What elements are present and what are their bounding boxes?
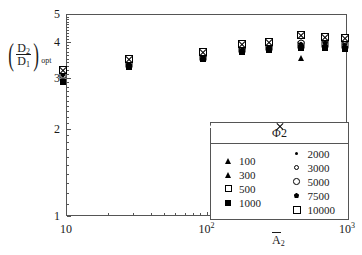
- legend: Φ2 1003005001000200030005000750010000: [210, 122, 349, 220]
- x-tick-label: 10: [46, 223, 86, 235]
- data-point: [297, 31, 305, 39]
- y-tick-label: 1: [38, 210, 60, 222]
- marker-triangle-filled: [225, 172, 231, 178]
- y-tick-minor: [67, 142, 69, 143]
- y-tick-minor: [67, 19, 69, 20]
- numerator-sub: 2: [26, 47, 30, 56]
- data-point: [298, 42, 303, 47]
- x-tick-minor: [175, 213, 176, 216]
- y-tick-minor: [67, 165, 69, 166]
- marker-square-crossed: [59, 66, 67, 74]
- legend-label: 3000: [305, 162, 330, 174]
- y-tick-minor: [67, 101, 69, 102]
- legend-label: 10000: [305, 204, 336, 216]
- marker-square-crossed: [265, 38, 273, 46]
- x-tick-minor: [193, 213, 194, 216]
- marker-diamond-filled: [294, 193, 299, 198]
- data-point: [321, 33, 329, 41]
- y-tick-minor: [67, 70, 69, 71]
- marker-diamond-filled: [298, 42, 303, 47]
- y-tick-minor: [67, 59, 69, 60]
- legend-label: 1000: [236, 197, 261, 209]
- y-tick-minor: [67, 87, 69, 88]
- denominator-sub: 1: [26, 60, 30, 69]
- y-tick-minor: [67, 66, 69, 67]
- legend-body: 1003005001000200030005000750010000: [211, 144, 348, 219]
- legend-symbol: [289, 152, 305, 155]
- data-point: [199, 48, 207, 56]
- legend-column: 200030005000750010000: [280, 144, 349, 219]
- legend-column: 1003005001000: [211, 144, 280, 219]
- marker-dot-filled: [295, 152, 298, 155]
- legend-symbol: [220, 158, 236, 164]
- x-axis-title: A2: [272, 233, 285, 248]
- marker-square-crossed: [125, 55, 133, 63]
- legend-label: 2000: [305, 148, 330, 160]
- y-axis-fraction: D2 D1: [16, 42, 31, 68]
- y-tick-minor: [67, 74, 69, 75]
- data-point: [298, 55, 304, 61]
- legend-symbol: [220, 172, 236, 178]
- paren-open-icon: (: [8, 42, 14, 67]
- x-tick-label: 103: [327, 223, 362, 237]
- legend-item[interactable]: 2000: [289, 147, 349, 161]
- x-tick-label: 102: [187, 223, 227, 237]
- data-point: [341, 34, 349, 42]
- marker-square-crossed: [321, 33, 329, 41]
- y-tick-minor: [67, 149, 69, 150]
- y-tick-label: 2: [38, 123, 60, 135]
- legend-item[interactable]: 10000: [289, 203, 349, 217]
- fraction-denominator: D1: [16, 54, 31, 67]
- marker-diamond-filled: [342, 42, 347, 47]
- y-tick: [67, 78, 71, 79]
- legend-symbol: [289, 165, 305, 170]
- marker-square-crossed: [297, 31, 305, 39]
- y-tick: [67, 129, 71, 130]
- legend-label: 7500: [305, 190, 330, 202]
- legend-item[interactable]: 3000: [289, 161, 349, 175]
- marker-triangle-filled: [298, 55, 304, 61]
- legend-label: 300: [236, 169, 256, 181]
- marker-square-crossed: [341, 34, 349, 42]
- y-tick-label: 3: [38, 72, 60, 84]
- data-point: [342, 42, 347, 47]
- x-tick-minor: [151, 213, 152, 216]
- y-tick: [67, 42, 71, 43]
- y-tick-minor: [67, 48, 69, 49]
- marker-square-filled: [225, 200, 231, 206]
- legend-item[interactable]: 300: [220, 168, 280, 182]
- data-point: [125, 55, 133, 63]
- marker-square-crossed: [293, 206, 301, 214]
- x-tick-minor: [108, 213, 109, 216]
- data-point: [265, 38, 273, 46]
- y-tick-minor: [67, 111, 69, 112]
- figure: ( D2 D1 ) opt A2 12345 10102103 Φ2 10030…: [0, 0, 362, 255]
- legend-item[interactable]: 500: [220, 182, 280, 196]
- x-tick: [207, 212, 208, 216]
- data-point: [60, 79, 66, 85]
- y-tick-label: 5: [38, 8, 60, 20]
- y-tick-minor: [67, 157, 69, 158]
- y-tick-label: 4: [38, 36, 60, 48]
- legend-item[interactable]: 100: [220, 154, 280, 168]
- y-tick-minor: [67, 52, 69, 53]
- legend-symbol: [220, 185, 236, 192]
- y-tick-minor: [67, 55, 69, 56]
- y-tick: [67, 216, 71, 217]
- y-tick-minor: [67, 22, 69, 23]
- legend-item[interactable]: 1000: [220, 196, 280, 210]
- legend-item[interactable]: 5000: [289, 175, 349, 189]
- y-tick-minor: [67, 117, 69, 118]
- legend-label: 500: [236, 183, 256, 195]
- legend-item[interactable]: 7500: [289, 189, 349, 203]
- y-tick-minor: [67, 24, 69, 25]
- marker-square-crossed: [199, 48, 207, 56]
- denominator-base: D: [17, 54, 26, 68]
- x-axis-title-sub: 2: [281, 239, 285, 248]
- legend-label: 100: [236, 155, 256, 167]
- legend-symbol: [220, 200, 236, 206]
- y-tick-minor: [67, 17, 69, 18]
- marker-triangle-open: [225, 158, 231, 164]
- marker-circle-tiny: [294, 165, 299, 170]
- legend-symbol: [289, 193, 305, 198]
